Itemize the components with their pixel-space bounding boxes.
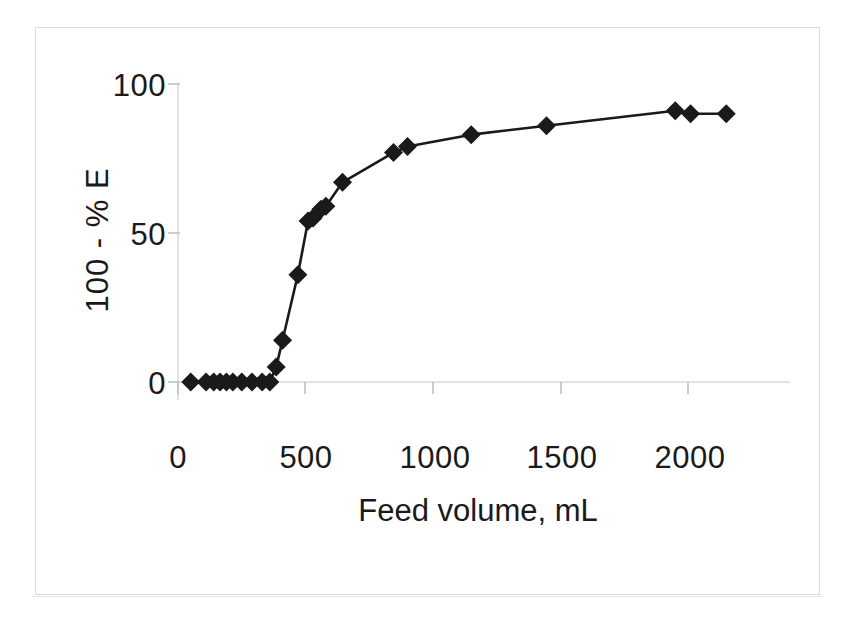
x-axis-title: Feed volume, mL <box>258 493 698 529</box>
x-tick-label-2000: 2000 <box>634 440 746 476</box>
chart-figure: 100 50 0 0 500 1000 1500 2000 Feed volum… <box>0 0 851 623</box>
x-tick-label-1000: 1000 <box>379 440 491 476</box>
x-tick-label-1500: 1500 <box>506 440 618 476</box>
x-tick-label-0: 0 <box>138 440 218 476</box>
page-bottom-rule <box>32 596 822 597</box>
y-axis-title: 100 - % E <box>80 90 116 390</box>
x-tick-label-500: 500 <box>258 440 354 476</box>
